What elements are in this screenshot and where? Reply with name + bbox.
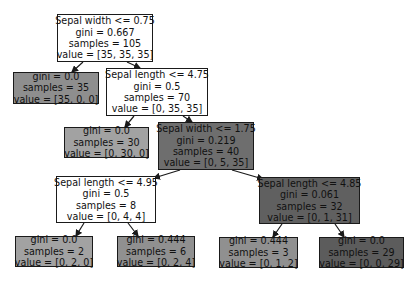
node-value: value = [0, 1, 2] [219, 258, 297, 269]
leaf-node-mixed-6: gini = 0.444 samples = 6 value = [0, 2, … [117, 236, 195, 267]
node-gini: gini = 0.444 [229, 235, 288, 246]
node-samples: samples = 105 [69, 38, 141, 49]
node-gini: gini = 0.444 [126, 234, 185, 245]
node-condition: Sepal length <= 4.75 [105, 69, 209, 80]
node-samples: samples = 8 [76, 200, 136, 211]
node-samples: samples = 30 [73, 137, 139, 148]
node-samples: samples = 3 [228, 247, 288, 258]
node-samples: samples = 29 [328, 247, 394, 258]
node-value: value = [0, 30, 0] [64, 148, 148, 159]
node-condition: Sepal width <= 1.75 [156, 123, 256, 134]
node-gini: gini = 0.061 [280, 189, 339, 200]
node-gini: gini = 0.219 [176, 135, 235, 146]
node-samples: samples = 6 [126, 246, 186, 257]
node-value: value = [0, 35, 35] [112, 103, 203, 114]
node-gini: gini = 0.0 [31, 234, 78, 245]
node-condition: Sepal length <= 4.85 [258, 178, 362, 189]
split-node-sepal-length-4-95: Sepal length <= 4.95 gini = 0.5 samples … [56, 176, 156, 223]
node-value: value = [0, 0, 29] [319, 258, 403, 269]
node-value: value = [0, 1, 31] [267, 212, 351, 223]
leaf-node-versicolor-30: gini = 0.0 samples = 30 value = [0, 30, … [64, 127, 149, 158]
node-value: value = [0, 2, 4] [117, 257, 195, 268]
split-node-sepal-width-1-75: Sepal width <= 1.75 gini = 0.219 samples… [158, 122, 254, 170]
node-gini: gini = 0.0 [33, 71, 80, 82]
node-value: value = [0, 2, 0] [15, 257, 93, 268]
leaf-node-virginica-29: gini = 0.0 samples = 29 value = [0, 0, 2… [319, 237, 404, 268]
node-value: value = [0, 4, 4] [67, 211, 145, 222]
node-gini: gini = 0.667 [75, 27, 134, 38]
node-samples: samples = 2 [24, 246, 84, 257]
root-split-node: Sepal width <= 0.75 gini = 0.667 samples… [57, 14, 153, 62]
leaf-node-setosa: gini = 0.0 samples = 35 value = [35, 0, … [13, 72, 99, 104]
node-gini: gini = 0.5 [134, 81, 181, 92]
node-condition: Sepal width <= 0.75 [55, 15, 155, 26]
node-samples: samples = 40 [173, 146, 239, 157]
leaf-node-mixed-3: gini = 0.444 samples = 3 value = [0, 1, … [219, 237, 298, 268]
node-samples: samples = 32 [276, 201, 342, 212]
node-gini: gini = 0.5 [83, 188, 130, 199]
split-node-sepal-length-4-85: Sepal length <= 4.85 gini = 0.061 sample… [259, 177, 360, 224]
leaf-node-versicolor-2: gini = 0.0 samples = 2 value = [0, 2, 0] [15, 236, 93, 267]
split-node-sepal-length-4-75: Sepal length <= 4.75 gini = 0.5 samples … [106, 68, 208, 116]
node-gini: gini = 0.0 [338, 235, 385, 246]
node-gini: gini = 0.0 [83, 125, 130, 136]
node-samples: samples = 70 [124, 92, 190, 103]
node-value: value = [0, 5, 35] [164, 157, 248, 168]
node-value: value = [35, 35, 35] [57, 49, 154, 60]
node-value: value = [35, 0, 0] [14, 94, 98, 105]
node-samples: samples = 35 [23, 82, 89, 93]
node-condition: Sepal length <= 4.95 [54, 177, 158, 188]
